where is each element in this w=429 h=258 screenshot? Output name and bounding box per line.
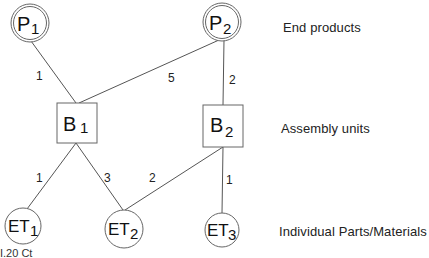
node-p2: P 2 [203,3,241,41]
edge-b1-et1 [27,143,76,209]
node-et1-sub: 1 [30,222,38,239]
edge-b2-et3 [222,147,223,213]
edge-p2-b2 [223,40,224,105]
edge-label-b1-et2: 3 [104,171,111,185]
level-label-assembly-units: Assembly units [281,121,370,136]
node-p1-letter: P [17,13,30,35]
edge-p2-b1 [79,40,219,103]
node-b1: B 1 [57,103,97,143]
level-label-end-products: End products [283,20,361,35]
node-et2-sub: 2 [130,225,138,242]
edge-label-p2-b1: 5 [168,71,175,85]
node-p1-sub: 1 [31,20,39,37]
node-b2-sub: 2 [225,123,233,140]
node-b1-letter: B [63,113,76,135]
edge-b2-et2 [125,147,223,210]
node-et2: ET 2 [105,210,143,248]
node-p1: P 1 [11,4,49,42]
node-b2-letter: B [210,114,223,136]
node-p2-sub: 2 [223,20,231,37]
edge-label-b2-et3: 1 [226,173,233,187]
edge-label-b2-et2: 2 [149,171,156,185]
node-et3-sub: 3 [228,226,236,243]
node-p2-letter: P [209,12,222,34]
node-et3-letter: ET [207,221,229,240]
node-et1: ET 1 [5,208,41,244]
edge-label-b1-et1: 1 [36,171,43,185]
edge-label-p2-b2: 2 [229,73,236,87]
node-b2: B 2 [203,105,243,147]
edge-b1-et2 [76,143,123,210]
edge-label-p1-b1: 1 [36,69,43,83]
node-et1-letter: ET [8,217,30,236]
bill-of-materials-diagram: P 1 P 2 B 1 B 2 ET 1 [0,0,429,258]
caption-fragment: I.20 Ct [0,247,32,258]
node-et2-letter: ET [108,220,130,239]
level-label-individual-parts: Individual Parts/Materials [279,224,427,239]
node-b1-sub: 1 [80,119,88,136]
node-et3: ET 3 [205,213,239,247]
